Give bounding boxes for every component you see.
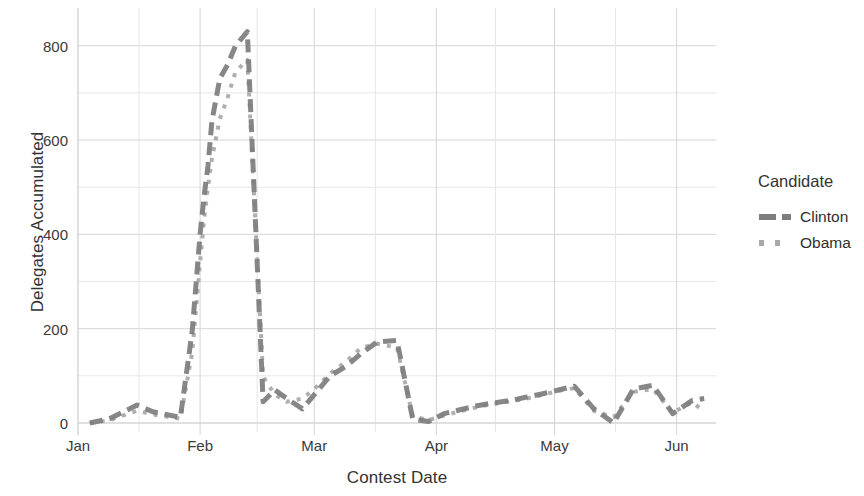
x-tick-label: May (525, 437, 585, 454)
x-tick-label: Apr (406, 437, 466, 454)
x-tick-label: Jun (647, 437, 707, 454)
legend-item-clinton[interactable]: Clinton (758, 204, 864, 230)
legend-title: Candidate (758, 172, 864, 191)
legend-item-obama[interactable]: Obama (758, 230, 864, 256)
dashed-line-key-icon (758, 210, 792, 224)
legend-label-clinton: Clinton (800, 208, 848, 226)
legend: Candidate Clinton Obama (758, 172, 864, 256)
delegates-accumulated-line-chart: Delegates Accumulated 0200400600800 JanF… (0, 0, 864, 496)
x-tick-label: Jan (48, 437, 108, 454)
x-axis-title: Contest Date (78, 468, 716, 488)
dotted-line-key-icon (758, 236, 792, 250)
x-tick-label: Mar (284, 437, 344, 454)
plot-area (0, 0, 864, 496)
x-tick-label: Feb (170, 437, 230, 454)
legend-label-obama: Obama (800, 234, 851, 252)
